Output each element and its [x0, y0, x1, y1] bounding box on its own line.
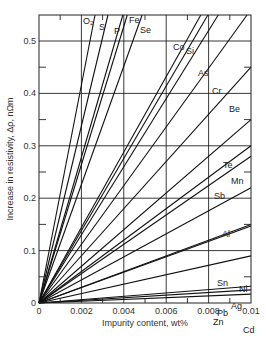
series-label: Fe: [129, 15, 140, 25]
series-label: Al: [222, 229, 230, 239]
series-label: Zn: [213, 317, 224, 327]
y-tick-label: 0.1: [23, 246, 36, 256]
series-label: Cd: [243, 325, 255, 335]
series-line-te: [39, 120, 251, 303]
series-label: Sb: [214, 191, 225, 201]
series-lines: [39, 15, 251, 303]
y-axis-title: Increase in resistivity, Δρ, nΩm: [5, 97, 15, 220]
series-line-as: [39, 15, 218, 303]
series-label: Sn: [217, 278, 228, 288]
series-line-cr: [39, 15, 247, 303]
x-tick-label: 0: [36, 306, 41, 316]
series-label: Si: [186, 46, 194, 56]
series-label: Mn: [231, 176, 244, 186]
series-line-se: [39, 15, 142, 303]
y-tick-label: 0.4: [23, 88, 36, 98]
resistivity-chart: 00.0020.0040.0060.0080.0100.10.20.30.40.…: [0, 0, 266, 342]
series-label: Cr: [212, 86, 222, 96]
series-label: S: [99, 22, 105, 32]
series-line-co: [39, 15, 201, 303]
x-tick-label: 0.006: [155, 306, 178, 316]
series-label: As: [198, 68, 209, 78]
series-line-be: [39, 67, 251, 303]
series-label: P: [114, 26, 120, 36]
series-line-o: [39, 15, 95, 303]
series-label: Se: [140, 25, 151, 35]
series-label: Ni: [239, 284, 248, 294]
x-tick-label: 0.002: [70, 306, 93, 316]
y-tick-label: 0.3: [23, 141, 36, 151]
x-axis-title: Impurity content, wt%: [102, 318, 188, 328]
x-tick-label: 0.004: [113, 306, 136, 316]
x-tick-label: 0.01: [242, 306, 260, 316]
series-label: Te: [223, 160, 233, 170]
series-label: Be: [229, 104, 240, 114]
series-label: Co: [173, 42, 185, 52]
series-label: O₂: [83, 16, 94, 26]
y-tick-label: 0.2: [23, 193, 36, 203]
series-line-fe: [39, 15, 127, 303]
y-tick-label: 0.5: [23, 36, 36, 46]
series-line-p: [39, 15, 123, 303]
series-label: Ag: [231, 301, 242, 311]
y-tick-label: 0: [31, 298, 36, 308]
